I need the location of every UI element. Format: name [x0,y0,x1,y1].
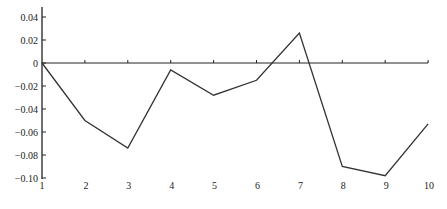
x-tick-label: 1 [40,180,45,191]
x-tick-label: 7 [298,180,303,191]
y-tick-label: 0.02 [21,35,39,46]
x-tick-label: 10 [424,180,434,191]
x-tick-label: 5 [212,180,217,191]
y-tick-label: 0.04 [21,12,39,23]
y-axis: 0.040.020−0.02−0.04−0.06−0.08−0.10 [15,7,46,184]
y-tick-label: −0.08 [15,150,38,161]
y-tick-label: −0.06 [15,127,38,138]
x-tick-labels: 12345678910 [40,180,435,191]
x-tick-label: 8 [341,180,346,191]
data-series [42,33,428,176]
x-axis-zero-line [42,60,428,63]
line-chart: 0.040.020−0.02−0.04−0.06−0.08−0.10 12345… [0,0,447,209]
x-tick-label: 3 [126,180,131,191]
x-tick-label: 2 [83,180,88,191]
x-tick-label: 6 [255,180,260,191]
y-tick-label: −0.02 [15,81,38,92]
y-tick-label: 0 [33,58,38,69]
y-tick-label: −0.10 [15,173,38,184]
y-tick-label: −0.04 [15,104,38,115]
x-tick-label: 9 [384,180,389,191]
x-tick-label: 4 [169,180,174,191]
series-line [42,33,428,176]
